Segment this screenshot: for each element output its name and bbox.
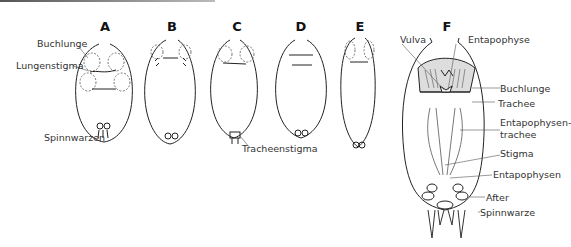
label-f-spinnwarze: Spinnwarze: [480, 207, 535, 218]
abdomen-a: [73, 44, 132, 142]
label-a-spinnwarzen: Spinnwarzen: [44, 132, 105, 143]
label-f-trachee: Trachee: [498, 98, 535, 109]
label-f-entapophysen: Entapophysen: [493, 169, 561, 180]
abdomen-c: [211, 40, 258, 148]
label-f-vulva: Vulva: [400, 34, 426, 45]
label-a-buchlunge: Buchlunge: [37, 38, 87, 49]
abdomen-d: [276, 40, 327, 138]
abdomen-e: [341, 38, 375, 148]
label-c-tracheenstigma: Tracheenstigma: [242, 143, 318, 154]
label-f-entapophyse: Entapophyse: [468, 34, 530, 45]
label-f-buchlunge: Buchlunge: [500, 83, 550, 94]
label-f-entapophysentrachee-1: Entapophysen-: [500, 117, 571, 128]
label-f-stigma: Stigma: [500, 148, 534, 159]
label-f-entapophysentrachee-2: trachee: [500, 129, 536, 140]
abdomen-b: [145, 40, 196, 144]
label-a-lungenstigma: Lungenstigma: [16, 60, 83, 71]
label-f-after: After: [486, 192, 509, 203]
